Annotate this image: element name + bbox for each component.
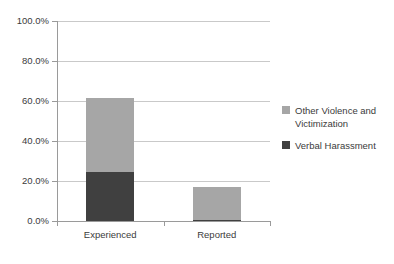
x-axis-tick (57, 221, 58, 226)
bar-segment[interactable] (86, 172, 134, 221)
y-axis-line (57, 21, 58, 222)
x-axis-category-label: Experienced (50, 229, 170, 241)
y-axis-tick (52, 101, 57, 102)
gridline (57, 61, 270, 62)
y-axis-tick-label: 60.0% (0, 96, 49, 106)
legend-label-line1: Other Violence and (295, 104, 392, 117)
legend-item-other-violence-and-victimization[interactable]: Other Violence and Victimization (282, 104, 392, 130)
bar-chart: 0.0%20.0%40.0%60.0%80.0%100.0%Experience… (0, 0, 394, 264)
legend-label-line1: Verbal Harassment (295, 139, 392, 152)
bar-segment[interactable] (86, 98, 134, 172)
y-axis-tick-label: 0.0% (0, 216, 49, 226)
gridline (57, 21, 270, 22)
y-axis-tick (52, 61, 57, 62)
legend-label-line2: Victimization (295, 117, 392, 130)
y-axis-tick-label: 40.0% (0, 136, 49, 146)
y-axis-tick (52, 141, 57, 142)
legend-swatch-verbal-harassment (282, 141, 290, 149)
y-axis-tick-label: 20.0% (0, 176, 49, 186)
legend-swatch-other-violence-and-victimization (282, 106, 290, 114)
y-axis-tick-label: 100.0% (0, 16, 49, 26)
x-axis-tick (164, 221, 165, 226)
x-axis-category-label: Reported (157, 229, 277, 241)
y-axis-tick (52, 181, 57, 182)
bar-segment[interactable] (193, 187, 241, 220)
legend-item-verbal-harassment[interactable]: Verbal Harassment (282, 139, 392, 152)
chart-legend: Other Violence and Victimization Verbal … (282, 104, 392, 161)
y-axis-tick (52, 21, 57, 22)
y-axis-tick-label: 80.0% (0, 56, 49, 66)
bar-segment[interactable] (193, 220, 241, 221)
x-axis-tick (270, 221, 271, 226)
